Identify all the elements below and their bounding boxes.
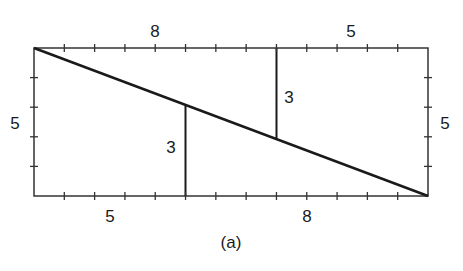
figure-caption: (a) <box>221 233 242 252</box>
label-left-side: 5 <box>10 114 19 133</box>
label-bottom-left: 5 <box>105 207 114 226</box>
label-top-left: 8 <box>150 22 159 41</box>
puzzle-diagram: 8 5 5 8 5 5 3 3 (a) <box>0 0 463 271</box>
label-right-side: 5 <box>440 114 449 133</box>
label-inner-left: 3 <box>166 138 175 157</box>
label-inner-right: 3 <box>284 88 293 107</box>
label-top-right: 5 <box>346 22 355 41</box>
diagonal-line <box>34 48 428 196</box>
label-bottom-right: 8 <box>302 207 311 226</box>
